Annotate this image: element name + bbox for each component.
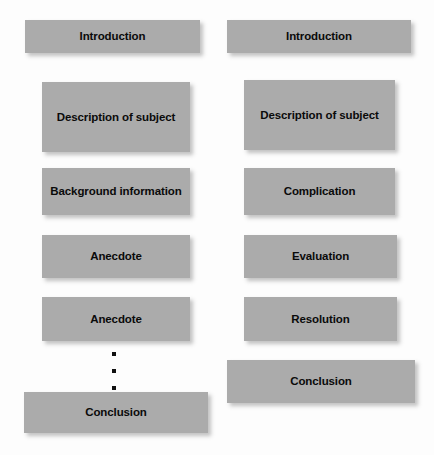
stage-box-label: Introduction [286,30,352,43]
stage-box-label: Resolution [291,313,349,326]
stage-box-label: Complication [284,185,356,198]
stage-box[interactable]: Conclusion [227,360,415,403]
right-column: IntroductionDescription of subjectCompli… [0,0,434,455]
stage-box-label: Evaluation [292,250,349,263]
stage-box[interactable]: Evaluation [244,235,397,278]
stage-box-label: Description of subject [260,109,379,122]
stage-box[interactable]: Introduction [227,20,411,53]
stage-box-label: Conclusion [290,375,352,388]
stage-box[interactable]: Complication [244,168,395,215]
essay-structure-diagram: IntroductionDescription of subjectBackgr… [0,0,434,455]
stage-box[interactable]: Description of subject [244,80,395,150]
stage-box[interactable]: Resolution [244,297,397,341]
